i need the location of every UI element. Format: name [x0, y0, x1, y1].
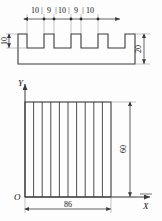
dim-chain-3: 10 [58, 6, 66, 15]
dim-chain-4: 9 [74, 6, 78, 15]
left-dimension-group: 10 [0, 34, 27, 48]
y-axis-label: Y [18, 78, 24, 88]
dim-chain-1: 10 [31, 6, 39, 15]
right-dimension-label: 20 [134, 45, 143, 53]
castellated-outline [18, 34, 135, 64]
dim-chain-5: 10 [86, 6, 94, 15]
right-dimension-group: 20 [134, 34, 150, 64]
drawing-svg: 10 9 10 9 10 10 [0, 0, 162, 221]
height-dimension-label: 60 [119, 145, 128, 153]
top-extension-lines [27, 14, 98, 34]
top-view-group: 10 9 10 9 10 10 [0, 6, 150, 64]
technical-drawing-canvas: 10 9 10 9 10 10 [0, 0, 162, 221]
bottom-view-group: Y X O [14, 78, 152, 213]
x-axis-label: X [142, 201, 149, 211]
hatch-lines [34, 102, 103, 197]
height-dimension-group: 60 [111, 102, 136, 197]
width-dimension-group: 86 [25, 197, 111, 213]
origin-label: O [14, 192, 21, 202]
width-dimension-label: 86 [64, 200, 72, 209]
top-dimension-chain [24, 18, 120, 21]
dim-chain-2: 9 [47, 6, 51, 15]
left-dimension-label: 10 [0, 37, 9, 45]
